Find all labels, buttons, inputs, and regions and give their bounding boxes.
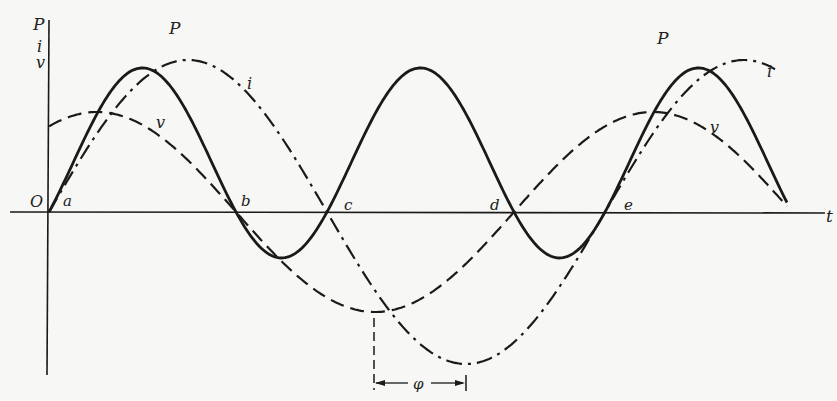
- waveform-diagram: φ P i v t O a b c d e P P i i v v: [0, 0, 837, 401]
- power-curve-P: [49, 68, 787, 258]
- curve-label-v-2: v: [710, 118, 719, 137]
- vertical-axis: [47, 20, 49, 375]
- point-label-b: b: [241, 192, 251, 210]
- arrow-left-icon: [375, 380, 385, 386]
- point-label-d: d: [490, 196, 500, 214]
- origin-label: O: [30, 192, 43, 211]
- point-label-a: a: [63, 192, 72, 210]
- curve-label-P-2: P: [656, 28, 669, 48]
- point-label-e: e: [624, 196, 633, 214]
- curve-label-P-1: P: [168, 18, 181, 38]
- curve-label-v-1: v: [156, 113, 165, 132]
- phase-label: φ: [413, 375, 424, 393]
- arrow-right-icon: [455, 380, 465, 386]
- point-label-c: c: [344, 196, 353, 214]
- axis-label-t: t: [826, 206, 833, 226]
- axis-label-P: P: [32, 14, 45, 34]
- curve-label-i-1: i: [247, 74, 252, 93]
- axis-label-v: v: [36, 53, 45, 72]
- time-axis: [10, 212, 825, 213]
- curve-label-i-2: i: [767, 62, 772, 81]
